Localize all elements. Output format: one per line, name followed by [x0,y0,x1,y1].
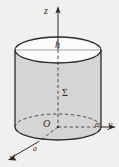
cylinder-coordinate-diagram: z h Σ O a y a x [0,0,119,167]
origin-point [57,126,59,128]
radius-label-y-axis: a [95,121,99,129]
x-axis-label: x [9,153,13,162]
y-axis-label: y [108,120,112,130]
z-axis-label: z [44,6,48,16]
radius-label-x-axis: a [33,145,37,153]
surface-sigma-label: Σ [62,88,68,98]
diagram-canvas [0,0,119,167]
height-label: h [55,40,60,50]
origin-label: O [43,119,50,129]
